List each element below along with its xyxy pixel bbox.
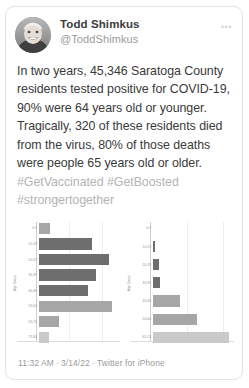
chart-cases-bar-4 [39,285,88,296]
chart-deaths-bar-6 [153,332,229,343]
chart-cases-bar-5 [39,301,112,312]
chart-cases-track-7 [39,331,120,344]
chart-cases-track-3 [39,268,120,281]
chart-deaths-track-0 [153,222,234,235]
chart-cases-track-4 [39,284,120,297]
chart-deaths-tick-2: 20-29 [132,263,153,267]
chart-cases-tick-3: 30-39 [18,273,39,277]
chart-row: 10-19 [18,237,120,250]
display-name[interactable]: Todd Shimkus [60,18,140,32]
avatar[interactable] [15,17,51,53]
chart-deaths-by-age: Age Group 0-9 10-19 [126,222,234,344]
chart-cases-by-age: Age Group 0-9 10-19 [12,222,120,344]
chart-cases-track-2 [39,253,120,266]
tweet-header: Todd Shimkus @ToddShimkus ••• [6,7,242,53]
chart-cases-track-1 [39,237,120,250]
user-avatar-photo-icon [15,17,51,53]
chart-deaths-tick-3: 30-39 [132,281,153,285]
tweet-footer: 11:32 AM·3/14/22·Twitter for iPhone [6,344,242,368]
tweet-card: Todd Shimkus @ToddShimkus ••• In two yea… [5,6,243,380]
chart-cases-bar-0 [39,223,50,234]
tweet-time: 11:32 AM [18,358,54,368]
chart-row: 50-64 [18,300,120,313]
chart-cases-tick-1: 10-19 [18,242,39,246]
chart-cases-track-0 [39,222,120,235]
chart-row: 0-9 [18,222,120,235]
chart-deaths-bar-1 [153,241,155,252]
tweet-text: In two years, 45,346 Saratoga County res… [6,53,242,210]
chart-deaths-bar-5 [153,314,197,325]
identity-block: Todd Shimkus @ToddShimkus [60,17,140,46]
footer-separator-1: · [54,358,61,368]
chart-deaths-tick-6: 65-74 [132,335,153,339]
chart-deaths-tick-4: 40-49 [132,299,153,303]
tweet-date: 3/14/22 [61,358,90,368]
more-options-icon[interactable]: ••• [221,23,232,32]
hashtag-getvaccinated[interactable]: #GetVaccinated [17,175,104,189]
chart-deaths-track-3 [153,276,234,289]
chart-cases-tick-6: 65-74 [18,320,39,324]
chart-cases-tick-0: 0-9 [18,226,39,230]
chart-deaths-bar-3 [153,277,160,288]
chart-deaths-track-5 [153,313,234,326]
chart-row: 30-39 [18,268,120,281]
chart-row: 30-39 [132,276,234,289]
chart-deaths-tick-1: 10-19 [132,245,153,249]
tweet-source[interactable]: Twitter for iPhone [97,358,165,368]
chart-cases-track-6 [39,315,120,328]
chart-row: 20-29 [132,258,234,271]
chart-row: 40-49 [132,294,234,307]
chart-cases-tick-5: 50-64 [18,304,39,308]
chart-cases-bar-1 [39,238,92,249]
chart-cases-bar-2 [39,254,109,265]
chart-deaths-tick-5: 50-64 [132,317,153,321]
chart-cases-tick-7: 75-84 [18,335,39,339]
chart-row: 10-19 [132,240,234,253]
tweet-media-charts[interactable]: Age Group 0-9 10-19 [6,210,242,344]
hashtag-strongertogether[interactable]: #strongertogether [17,193,114,207]
chart-cases-bar-6 [39,316,59,327]
chart-cases-tick-2: 20-29 [18,258,39,262]
footer-separator-2: · [90,358,97,368]
tweet-text-main: In two years, 45,346 Saratoga County res… [17,64,230,170]
chart-deaths-track-1 [153,240,234,253]
chart-cases-bar-7 [39,332,49,343]
chart-deaths-tick-0: 0-9 [132,226,153,230]
chart-cases-bar-3 [39,269,96,280]
chart-row: 75-84 [18,331,120,344]
chart-row: 40-49 [18,284,120,297]
chart-cases-track-5 [39,300,120,313]
hashtag-getboosted[interactable]: #GetBoosted [107,175,179,189]
user-handle[interactable]: @ToddShimkus [60,33,140,46]
chart-row: 65-74 [132,331,234,344]
chart-row: 20-29 [18,253,120,266]
chart-deaths-plot: 0-9 10-19 20-29 [131,222,234,344]
chart-deaths-bar-4 [153,295,180,306]
chart-deaths-track-6 [153,331,234,344]
chart-deaths-track-2 [153,258,234,271]
chart-cases-tick-4: 40-49 [18,289,39,293]
chart-cases-plot: 0-9 10-19 20-29 [17,222,120,344]
chart-deaths-track-4 [153,294,234,307]
chart-deaths-bar-2 [153,259,159,270]
chart-row: 0-9 [132,222,234,235]
chart-row: 50-64 [132,313,234,326]
chart-row: 65-74 [18,315,120,328]
